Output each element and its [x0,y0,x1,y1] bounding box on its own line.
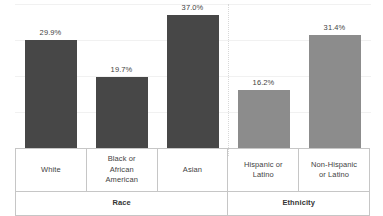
bar-asian[interactable]: 37.0% [167,15,219,148]
bar-value-label: 29.9% [40,28,62,37]
bar-slot: 37.0% [157,4,228,148]
category-label-line: Asian [183,165,202,174]
group-cell-race: Race [16,192,228,216]
category-label-line: or Latino [319,170,349,179]
group-label: Ethnicity [282,198,315,207]
category-label-line: Latino [253,170,274,179]
bar-black-or-african-american[interactable]: 19.7% [96,77,148,148]
bar-hispanic-or-latino[interactable]: 16.2% [238,90,290,148]
category-label-line: American [105,175,137,184]
category-cell-asian: Asian [157,149,228,192]
bar-slot: 31.4% [299,4,370,148]
category-label-row: White Black or African American Asian Hi… [16,149,370,192]
category-label-line: White [41,165,61,174]
category-cell-non-hispanic-or-latino: Non-Hispanic or Latino [299,149,370,192]
bar-slot: 16.2% [228,4,299,148]
bar-value-label: 37.0% [182,3,204,12]
bar-value-label: 19.7% [111,65,133,74]
bar-chart: 29.9% 19.7% 37.0% 16.2% 31.4% [0,0,383,216]
plot-area: 29.9% 19.7% 37.0% 16.2% 31.4% [15,4,371,148]
category-cell-black-or-african-american: Black or African American [86,149,157,192]
bar-value-label: 31.4% [324,23,346,32]
bar-non-hispanic-or-latino[interactable]: 31.4% [309,35,361,148]
category-cell-white: White [16,149,87,192]
category-cell-hispanic-or-latino: Hispanic or Latino [228,149,299,192]
category-label-line: African [110,165,134,174]
bar-slot: 29.9% [15,4,86,148]
group-cell-ethnicity: Ethnicity [228,192,370,216]
group-label-row: Race Ethnicity [16,192,370,216]
category-label-line: Non-Hispanic [311,160,357,169]
category-label-line: Hispanic or [244,160,283,169]
bar-value-label: 16.2% [253,78,275,87]
bar-white[interactable]: 29.9% [25,40,77,148]
group-label: Race [113,198,131,207]
bar-slot: 19.7% [86,4,157,148]
category-label-line: Black or [108,154,136,163]
category-axis-table: White Black or African American Asian Hi… [15,148,370,216]
